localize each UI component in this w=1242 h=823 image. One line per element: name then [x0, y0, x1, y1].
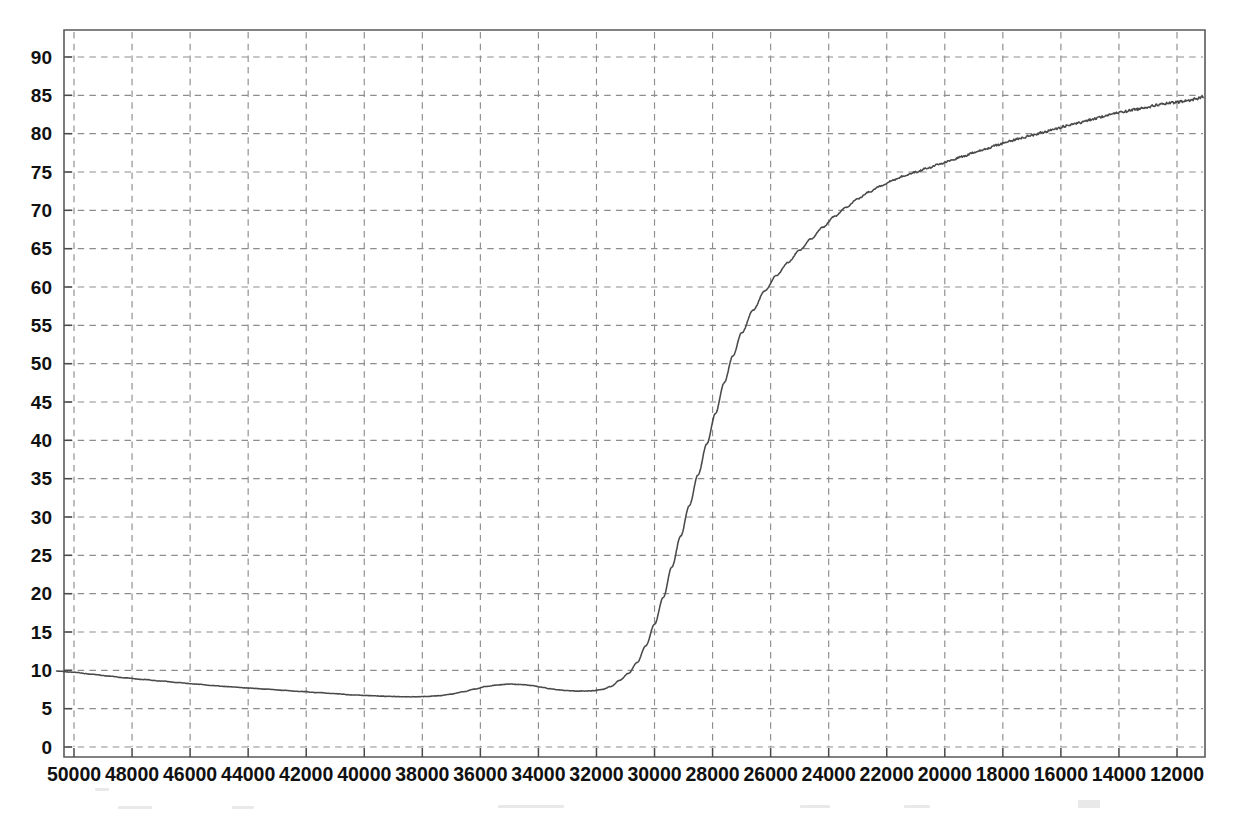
y-tick-label: 90	[31, 47, 52, 68]
line-chart-svg: 051015202530354045505560657075808590 500…	[0, 0, 1242, 823]
y-tick-label: 10	[31, 660, 52, 681]
x-tick-label: 40000	[337, 763, 391, 785]
y-tick-label: 85	[31, 85, 53, 106]
y-tick-label: 55	[31, 315, 53, 336]
scan-speck	[95, 788, 109, 791]
scan-speck	[498, 805, 564, 808]
scan-speck	[800, 805, 830, 808]
x-tick-label: 32000	[569, 763, 623, 785]
x-tick-label: 46000	[163, 763, 217, 785]
y-tick-label: 25	[31, 545, 53, 566]
y-tick-label: 5	[41, 698, 52, 719]
y-tick-label: 35	[31, 468, 53, 489]
x-tick-label: 28000	[685, 763, 739, 785]
y-tick-label: 40	[31, 430, 52, 451]
x-tick-label: 18000	[976, 763, 1030, 785]
y-tick-label: 15	[31, 622, 53, 643]
y-tick-label: 65	[31, 238, 53, 259]
chart-figure: 051015202530354045505560657075808590 500…	[0, 0, 1242, 823]
x-tick-label: 34000	[511, 763, 565, 785]
x-tick-label: 12000	[1150, 763, 1204, 785]
x-tick-label: 48000	[105, 763, 159, 785]
x-tick-label: 38000	[395, 763, 449, 785]
y-tick-label: 75	[31, 162, 53, 183]
x-tick-label: 42000	[279, 763, 333, 785]
x-tick-label: 20000	[918, 763, 972, 785]
x-tick-label: 36000	[453, 763, 507, 785]
y-tick-label: 30	[31, 507, 52, 528]
x-tick-label: 16000	[1034, 763, 1088, 785]
scan-speck	[232, 806, 254, 809]
chart-background	[0, 0, 1242, 823]
x-tick-label: 30000	[627, 763, 681, 785]
x-tick-label: 26000	[744, 763, 798, 785]
y-tick-label: 60	[31, 277, 52, 298]
x-tick-label: 44000	[221, 763, 275, 785]
y-tick-label: 80	[31, 123, 52, 144]
x-tick-label: 24000	[802, 763, 856, 785]
x-tick-label: 22000	[860, 763, 914, 785]
x-tick-label: 14000	[1092, 763, 1146, 785]
scan-speck	[118, 806, 152, 809]
y-tick-label: 20	[31, 583, 52, 604]
x-tick-label: 50000	[47, 763, 101, 785]
scan-speck	[1078, 800, 1100, 808]
scan-speck	[904, 805, 930, 808]
y-tick-label: 50	[31, 353, 52, 374]
y-tick-label: 70	[31, 200, 52, 221]
y-tick-label: 0	[41, 737, 52, 758]
y-tick-label: 45	[31, 392, 53, 413]
